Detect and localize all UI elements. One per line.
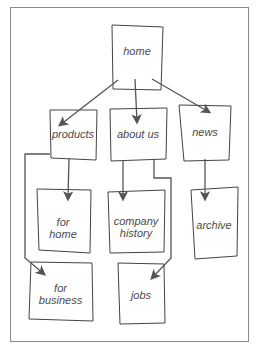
node-forhome-label: for home (48, 216, 78, 240)
node-home-label: home (123, 45, 151, 57)
node-archive-label: archive (196, 219, 231, 231)
node-news: news (180, 104, 230, 160)
node-jobs-label: jobs (131, 289, 151, 301)
node-products: products (49, 108, 97, 160)
node-about-us: about us (109, 108, 167, 160)
node-history-label: company history (111, 215, 161, 239)
node-archive: archive (190, 210, 238, 240)
node-news-label: news (192, 126, 218, 138)
node-business-label: for business (36, 282, 86, 306)
node-products-label: products (52, 128, 94, 140)
node-jobs: jobs (117, 280, 165, 310)
node-company-history: company history (107, 207, 165, 247)
node-for-business: for business (28, 276, 93, 312)
edge-products-forhome (68, 158, 69, 199)
node-home: home (111, 24, 163, 91)
node-about-label: about us (117, 128, 159, 140)
node-for-home: for home (36, 208, 90, 248)
